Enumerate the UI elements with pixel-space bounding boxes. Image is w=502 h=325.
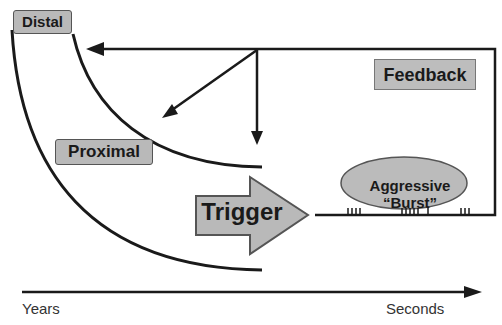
feedback-arrow-head-icon xyxy=(86,42,104,56)
feedback-label: Feedback xyxy=(374,59,476,90)
axis-label-seconds: Seconds xyxy=(386,300,444,317)
vertical-arrow-head-icon xyxy=(251,131,263,145)
proximal-label: Proximal xyxy=(55,139,153,165)
burst-label-line1: Aggressive xyxy=(345,177,475,194)
axis-label-years: Years xyxy=(22,300,60,317)
burst-label-line2: “Burst” xyxy=(345,194,475,211)
time-axis-arrow-head-icon xyxy=(464,286,482,298)
distal-label: Distal xyxy=(13,10,72,34)
trigger-label: Trigger xyxy=(196,197,288,227)
aggressive-burst-label: Aggressive “Burst” xyxy=(345,177,475,211)
feedback-diagonal-arrow xyxy=(172,50,257,110)
